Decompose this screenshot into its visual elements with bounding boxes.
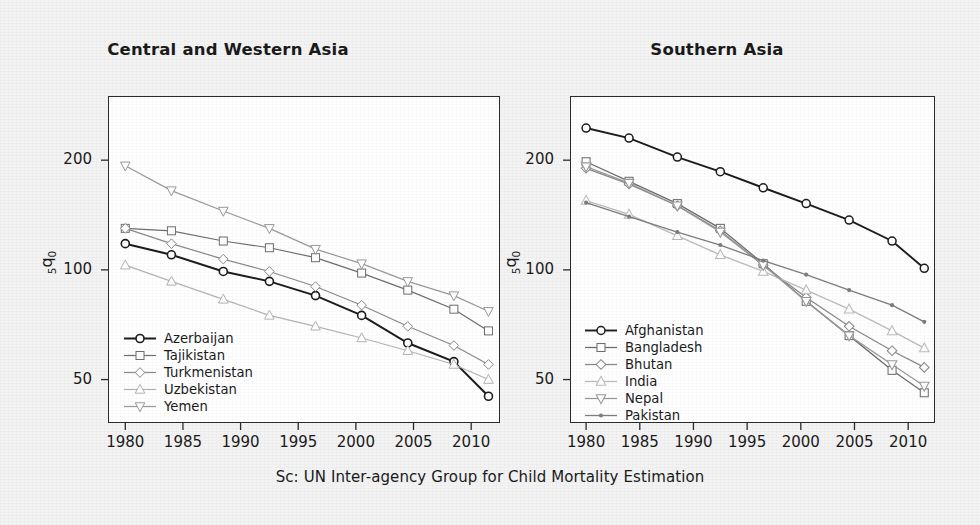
data-point-triangle-down <box>135 403 145 412</box>
data-point-circle <box>625 134 633 142</box>
data-point-circle <box>888 237 896 245</box>
x-tick-label: 1990 <box>209 433 273 451</box>
legend-key-diamond-icon <box>122 364 158 381</box>
legend-item-bhutan[interactable]: Bhutan <box>583 356 704 373</box>
x-tick-label: 1980 <box>93 433 157 451</box>
data-point-circle <box>920 264 928 272</box>
data-point-triangle-down <box>596 395 606 404</box>
data-point-square <box>136 352 144 360</box>
data-point-dot <box>584 200 588 204</box>
legend-right: AfghanistanBangladeshBhutanIndiaNepalPak… <box>583 322 704 424</box>
data-point-triangle-up <box>135 384 145 393</box>
data-point-circle <box>597 327 605 335</box>
legend-key-triangle-down-icon <box>583 390 619 407</box>
series-line-pakistan <box>586 203 924 322</box>
y-label-q: q <box>37 257 56 267</box>
x-tick-label: 2000 <box>324 433 388 451</box>
data-point-triangle-up <box>716 250 726 259</box>
data-point-diamond <box>596 360 606 370</box>
y-label-sub-5-right: 5 <box>510 268 522 275</box>
data-point-circle <box>845 216 853 224</box>
x-tick-label: 2010 <box>439 433 503 451</box>
x-tick-label: 2005 <box>382 433 446 451</box>
y-tick-label: 200 <box>506 150 554 168</box>
legend-key-circle-icon <box>122 330 158 347</box>
x-tick-label: 1995 <box>266 433 330 451</box>
data-point-triangle-up <box>596 376 606 385</box>
data-point-dot <box>922 320 926 324</box>
legend-key-triangle-up-icon <box>583 373 619 390</box>
legend-item-nepal[interactable]: Nepal <box>583 390 704 407</box>
legend-item-india[interactable]: India <box>583 373 704 390</box>
legend-key-square-icon <box>122 347 158 364</box>
legend-label: Azerbaijan <box>158 331 234 346</box>
data-point-dot <box>847 288 851 292</box>
legend-key-triangle-down-icon <box>122 398 158 415</box>
legend-label: India <box>619 374 657 389</box>
y-label-sub-5: 5 <box>46 268 58 275</box>
legend-label: Bhutan <box>619 357 672 372</box>
data-point-circle <box>673 153 681 161</box>
data-point-dot <box>627 215 631 219</box>
legend-key-circle-icon <box>583 322 619 339</box>
data-point-square <box>597 344 605 352</box>
legend-label: Turkmenistan <box>158 365 253 380</box>
figure-root: Central and Western Asia Southern Asia 1… <box>0 0 980 525</box>
data-point-dot <box>804 273 808 277</box>
data-point-circle <box>759 184 767 192</box>
legend-label: Uzbekistan <box>158 382 237 397</box>
data-point-dot <box>675 230 679 234</box>
legend-item-azerbaijan[interactable]: Azerbaijan <box>122 330 253 347</box>
legend-item-afghanistan[interactable]: Afghanistan <box>583 322 704 339</box>
figure-caption: Sc: UN Inter-agency Group for Child Mort… <box>0 468 980 486</box>
data-point-circle <box>802 200 810 208</box>
legend-key-triangle-up-icon <box>122 381 158 398</box>
y-axis-label-right: 5q0 <box>501 251 522 275</box>
legend-key-square-icon <box>583 339 619 356</box>
y-axis-label-left: 5q0 <box>37 251 58 275</box>
legend-item-yemen[interactable]: Yemen <box>122 398 253 415</box>
legend-label: Pakistan <box>619 408 680 423</box>
y-tick-label: 50 <box>44 370 92 388</box>
x-tick-label: 1985 <box>151 433 215 451</box>
legend-label: Nepal <box>619 391 663 406</box>
legend-item-bangladesh[interactable]: Bangladesh <box>583 339 704 356</box>
data-point-dot <box>761 259 765 263</box>
y-tick-label: 50 <box>506 370 554 388</box>
data-point-diamond <box>844 322 854 332</box>
data-point-triangle-up <box>919 343 929 352</box>
legend-label: Tajikistan <box>158 348 225 363</box>
data-point-diamond <box>135 368 145 378</box>
data-point-diamond <box>887 346 897 356</box>
series-line-afghanistan <box>586 128 924 268</box>
legend-key-dot-icon <box>583 407 619 424</box>
data-point-dot <box>599 413 603 417</box>
legend-label: Yemen <box>158 399 208 414</box>
data-point-dot <box>890 303 894 307</box>
legend-item-tajikistan[interactable]: Tajikistan <box>122 347 253 364</box>
y-label-q-right: q <box>501 257 520 267</box>
data-point-circle <box>716 168 724 176</box>
legend-item-turkmenistan[interactable]: Turkmenistan <box>122 364 253 381</box>
legend-item-pakistan[interactable]: Pakistan <box>583 407 704 424</box>
legend-item-uzbekistan[interactable]: Uzbekistan <box>122 381 253 398</box>
y-label-sub-0-right: 0 <box>510 251 522 258</box>
y-tick-label: 200 <box>44 150 92 168</box>
legend-label: Bangladesh <box>619 340 702 355</box>
data-point-triangle-up <box>844 304 854 313</box>
data-point-dot <box>718 243 722 247</box>
legend-label: Afghanistan <box>619 323 704 338</box>
data-point-circle <box>582 124 590 132</box>
y-label-sub-0: 0 <box>46 251 58 258</box>
data-point-triangle-up <box>801 285 811 294</box>
legend-key-diamond-icon <box>583 356 619 373</box>
data-point-circle <box>136 335 144 343</box>
data-point-triangle-up <box>887 326 897 335</box>
x-tick-label: 2010 <box>876 433 940 451</box>
data-point-diamond <box>919 363 929 373</box>
legend-left: AzerbaijanTajikistanTurkmenistanUzbekist… <box>122 330 253 415</box>
